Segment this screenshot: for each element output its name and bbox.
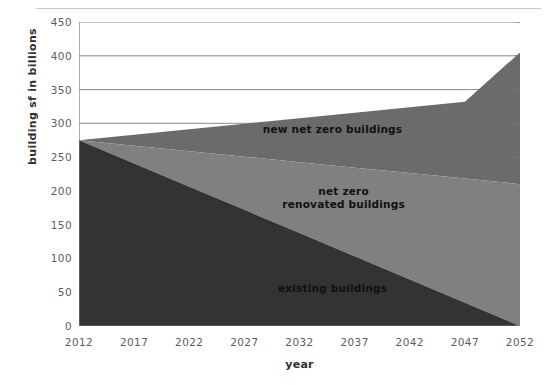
top-divider-rule	[36, 8, 541, 9]
plot-area: new net zero buildings net zero renovate…	[79, 22, 520, 326]
x-tick-2037: 2037	[340, 336, 368, 348]
x-tick-2042: 2042	[396, 336, 424, 348]
y-tick-0: 0	[65, 320, 72, 332]
x-tick-2052: 2052	[506, 336, 534, 348]
y-tick-300: 300	[51, 117, 72, 129]
y-tick-350: 350	[51, 84, 72, 96]
y-tick-400: 400	[51, 50, 72, 62]
x-tick-2022: 2022	[175, 336, 203, 348]
x-axis-tick-labels: 2012 2017 2022 2027 2032 2037 2042 2047 …	[79, 336, 520, 352]
y-axis-title: building sf in billions	[26, 17, 39, 177]
x-tick-2027: 2027	[230, 336, 258, 348]
chart-figure: 0 50 100 150 200 250 300 350 400 450	[0, 0, 553, 385]
stacked-area-svg	[79, 22, 520, 326]
y-tick-100: 100	[51, 252, 72, 264]
y-tick-250: 250	[51, 151, 72, 163]
x-tick-2017: 2017	[120, 336, 148, 348]
x-tick-2047: 2047	[451, 336, 479, 348]
y-tick-50: 50	[58, 286, 72, 298]
y-tick-150: 150	[51, 219, 72, 231]
y-tick-450: 450	[51, 16, 72, 28]
y-tick-200: 200	[51, 185, 72, 197]
y-axis-tick-labels: 0 50 100 150 200 250 300 350 400 450	[36, 22, 72, 326]
series-areas	[79, 52, 520, 326]
x-tick-2032: 2032	[285, 336, 313, 348]
x-axis-title: year	[79, 358, 520, 371]
x-tick-2012: 2012	[65, 336, 93, 348]
